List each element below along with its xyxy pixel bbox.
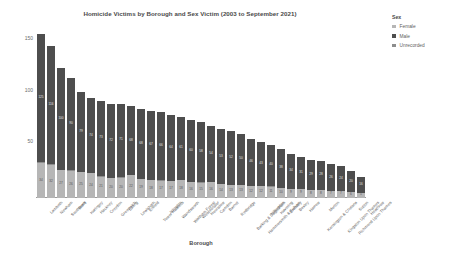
- bar-column[interactable]: 2474: [87, 98, 94, 198]
- bar-segment-female[interactable]: 14: [217, 184, 224, 198]
- bar-segment-female[interactable]: 9: [287, 189, 294, 198]
- bar-column[interactable]: 1350: [237, 134, 244, 198]
- bar-segment-male[interactable]: 74: [87, 98, 94, 174]
- bar-segment-female[interactable]: 25: [77, 172, 84, 198]
- bar-segment-female[interactable]: 7: [337, 191, 344, 198]
- bar-column[interactable]: 2072: [107, 104, 114, 198]
- bar-segment-female[interactable]: 18: [147, 180, 154, 198]
- bar-column[interactable]: 726: [327, 164, 334, 198]
- legend-item-female[interactable]: Female: [392, 24, 456, 29]
- bar-segment-male[interactable]: 38: [277, 149, 284, 188]
- bar-column[interactable]: 27100: [57, 68, 64, 198]
- bar-column[interactable]: 1766: [157, 112, 164, 198]
- bar-segment-female[interactable]: 22: [127, 175, 134, 198]
- bar-segment-female[interactable]: 17: [157, 181, 164, 198]
- bar-segment-female[interactable]: 8: [307, 190, 314, 198]
- bar-segment-male[interactable]: 31: [297, 157, 304, 189]
- bar-segment-male[interactable]: 28: [317, 161, 324, 190]
- bar-segment-male[interactable]: 73: [97, 101, 104, 176]
- bar-segment-female[interactable]: 19: [137, 179, 144, 198]
- bar-segment-unrecorded[interactable]: [117, 177, 124, 178]
- bar-segment-male[interactable]: 54: [207, 126, 214, 181]
- bar-segment-male[interactable]: 58: [197, 122, 204, 181]
- bar-column[interactable]: 829: [307, 160, 314, 198]
- bar-segment-female[interactable]: 11: [267, 187, 274, 198]
- legend-item-male[interactable]: Male: [392, 34, 456, 39]
- bar-segment-female[interactable]: 21: [97, 177, 104, 198]
- bar-column[interactable]: 828: [317, 161, 324, 198]
- bar-column[interactable]: 2690: [67, 78, 74, 198]
- bar-segment-female[interactable]: 32: [47, 165, 54, 198]
- bar-column[interactable]: 32116: [47, 46, 54, 198]
- bar-segment-female[interactable]: 7: [327, 191, 334, 198]
- bar-column[interactable]: 1352: [227, 131, 234, 198]
- bar-segment-male[interactable]: 72: [107, 104, 114, 178]
- bar-segment-female[interactable]: 13: [227, 185, 234, 198]
- bar-column[interactable]: 2579: [77, 92, 84, 198]
- bar-segment-male[interactable]: 46: [247, 139, 254, 186]
- bar-segment-female[interactable]: 20: [107, 178, 114, 198]
- bar-column[interactable]: 1654: [207, 126, 214, 198]
- bar-column[interactable]: 1140: [267, 145, 274, 198]
- bar-segment-male[interactable]: 29: [307, 160, 314, 190]
- bar-segment-male[interactable]: 34: [287, 154, 294, 189]
- bar-segment-unrecorded[interactable]: [47, 164, 54, 165]
- bar-column[interactable]: 1243: [257, 142, 264, 198]
- bar-segment-unrecorded[interactable]: [267, 186, 274, 187]
- bar-segment-female[interactable]: 17: [167, 181, 174, 198]
- bar-segment-male[interactable]: 79: [77, 92, 84, 173]
- bar-segment-female[interactable]: 16: [207, 182, 214, 198]
- bar-segment-male[interactable]: 90: [67, 78, 74, 170]
- bar-segment-female[interactable]: 9: [297, 189, 304, 198]
- bar-segment-female[interactable]: 34: [37, 163, 44, 198]
- bar-segment-male[interactable]: 50: [237, 134, 244, 185]
- bar-column[interactable]: 2173: [97, 101, 104, 198]
- bar-column[interactable]: 620: [347, 171, 354, 198]
- bar-column[interactable]: 1764: [167, 115, 174, 198]
- bar-segment-female[interactable]: 12: [257, 186, 264, 198]
- bar-segment-unrecorded[interactable]: [37, 162, 44, 163]
- bar-segment-male[interactable]: 26: [327, 164, 334, 191]
- bar-segment-male[interactable]: 53: [217, 129, 224, 183]
- bar-segment-female[interactable]: 20: [117, 178, 124, 198]
- bar-segment-male[interactable]: 125: [37, 34, 44, 162]
- bar-segment-male[interactable]: 61: [177, 117, 184, 179]
- bar-segment-male[interactable]: 24: [337, 166, 344, 191]
- bar-segment-female[interactable]: 15: [197, 183, 204, 198]
- bar-segment-male[interactable]: 68: [127, 106, 134, 176]
- bar-column[interactable]: 516: [357, 177, 364, 198]
- bar-segment-male[interactable]: 20: [347, 171, 354, 191]
- bar-segment-male[interactable]: 66: [157, 112, 164, 180]
- bar-column[interactable]: 1968: [137, 109, 144, 198]
- bar-segment-unrecorded[interactable]: [67, 170, 74, 171]
- bar-column[interactable]: 724: [337, 166, 344, 198]
- bar-segment-male[interactable]: 68: [137, 109, 144, 179]
- bar-segment-male[interactable]: 116: [47, 46, 54, 165]
- bar-column[interactable]: 1038: [277, 149, 284, 198]
- bar-column[interactable]: 1660: [187, 120, 194, 198]
- bar-segment-male[interactable]: 64: [167, 115, 174, 181]
- bar-segment-male[interactable]: 40: [267, 145, 274, 186]
- bar-column[interactable]: 931: [297, 157, 304, 198]
- bar-segment-male[interactable]: 71: [117, 104, 124, 177]
- legend-item-unrecorded[interactable]: Unrecorded: [392, 43, 456, 48]
- bar-column[interactable]: 2071: [117, 104, 124, 198]
- bar-segment-female[interactable]: 5: [357, 193, 364, 198]
- bar-segment-male[interactable]: 100: [57, 68, 64, 170]
- bar-segment-male[interactable]: 43: [257, 142, 264, 186]
- bar-column[interactable]: 1861: [177, 117, 184, 198]
- bar-segment-female[interactable]: 26: [67, 171, 74, 198]
- bar-segment-female[interactable]: 16: [187, 182, 194, 198]
- bar-segment-unrecorded[interactable]: [197, 182, 204, 183]
- bar-segment-female[interactable]: 24: [87, 173, 94, 198]
- bar-segment-female[interactable]: 27: [57, 170, 64, 198]
- bar-column[interactable]: 1246: [247, 139, 254, 198]
- bar-segment-female[interactable]: 18: [177, 180, 184, 198]
- bar-segment-female[interactable]: 13: [237, 185, 244, 198]
- bar-column[interactable]: 1558: [197, 122, 204, 198]
- bar-segment-unrecorded[interactable]: [157, 180, 164, 181]
- bar-column[interactable]: 1867: [147, 111, 154, 198]
- bar-segment-male[interactable]: 60: [187, 120, 194, 181]
- bar-column[interactable]: 934: [287, 154, 294, 198]
- bar-column[interactable]: 1453: [217, 129, 224, 198]
